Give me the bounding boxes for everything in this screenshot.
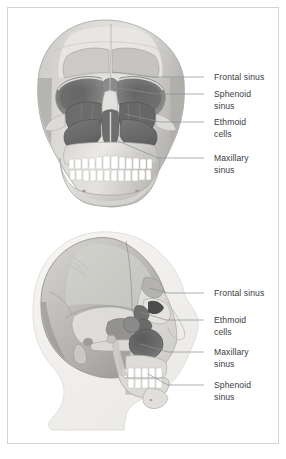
label-maxillary-sinus-line2: sinus	[214, 359, 235, 369]
lateral-skull-illustration: Frontal sinus Ethmoid cells Maxillary si…	[8, 222, 278, 440]
label-maxillary-sinus-line2: sinus	[214, 165, 235, 175]
lateral-labels: Frontal sinus Ethmoid cells Maxillary si…	[214, 288, 264, 402]
label-ethmoid-cells-line1: Ethmoid	[214, 117, 246, 127]
anterior-skull-drawing	[38, 20, 185, 207]
mental-foramen-right	[135, 190, 139, 193]
label-ethmoid-cells-line1: Ethmoid	[214, 315, 246, 325]
anterior-labels: Frontal sinus Sphenoid sinus Ethmoid cel…	[214, 72, 264, 175]
condylar-process	[107, 335, 116, 343]
lateral-skull-drawing	[33, 232, 198, 430]
lower-teeth-lateral	[128, 379, 162, 388]
paranasal-sinus-figure-plate: Frontal sinus Sphenoid sinus Ethmoid cel…	[0, 0, 286, 459]
label-sphenoid-sinus-line2: sinus	[214, 101, 235, 111]
maxillary-sinus-lateral	[129, 329, 163, 359]
label-sphenoid-sinus-line2: sinus	[214, 392, 235, 402]
mental-foramen-lateral	[149, 399, 152, 401]
mental-foramen-left	[82, 190, 86, 193]
label-sphenoid-sinus-line1: Sphenoid	[214, 380, 251, 390]
label-maxillary-sinus-line1: Maxillary	[214, 153, 249, 163]
label-maxillary-sinus-line1: Maxillary	[214, 347, 249, 357]
anterior-skull-panel: Frontal sinus Sphenoid sinus Ethmoid cel…	[8, 8, 278, 218]
anterior-skull-illustration: Frontal sinus Sphenoid sinus Ethmoid cel…	[8, 8, 278, 218]
external-auditory-meatus	[83, 338, 93, 346]
label-ethmoid-cells-line2: cells	[214, 327, 232, 337]
label-sphenoid-sinus-line1: Sphenoid	[214, 89, 251, 99]
sphenoid-sinus-lateral	[124, 317, 140, 333]
label-frontal-sinus: Frontal sinus	[214, 288, 264, 298]
lateral-skull-panel: Frontal sinus Ethmoid cells Maxillary si…	[8, 222, 278, 440]
label-ethmoid-cells-line2: cells	[214, 129, 232, 139]
label-frontal-sinus: Frontal sinus	[214, 72, 264, 82]
